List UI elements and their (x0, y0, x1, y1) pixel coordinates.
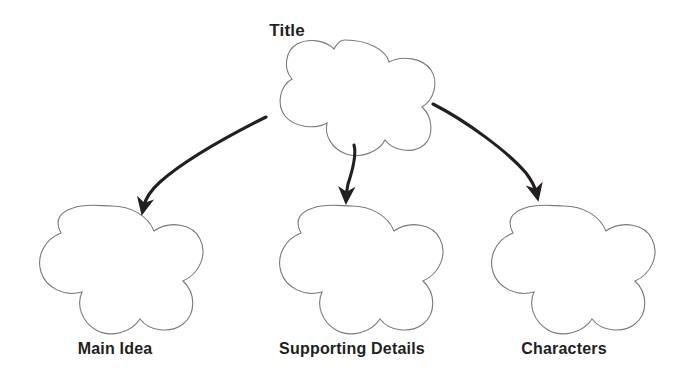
flower-outline-supporting-details (280, 205, 443, 334)
flower-outline-main-idea (40, 205, 203, 334)
node-shape-characters[interactable] (492, 205, 655, 334)
flower-outline-characters (492, 205, 655, 334)
graphic-organizer: Title Main Idea Supporting Details Chara… (0, 0, 674, 376)
node-shape-supporting-details[interactable] (280, 205, 443, 334)
node-shape-main-idea[interactable] (40, 205, 203, 334)
node-label-title: Title (269, 22, 305, 39)
node-label-main-idea: Main Idea (78, 341, 153, 357)
node-label-supporting-details: Supporting Details (279, 341, 425, 357)
arrow-title-to-characters (433, 104, 536, 193)
organizer-canvas (0, 0, 674, 376)
node-shape-title[interactable] (280, 40, 435, 156)
arrow-title-to-main-idea (144, 117, 267, 207)
node-label-characters: Characters (521, 341, 607, 357)
flower-outline-title (280, 40, 435, 156)
